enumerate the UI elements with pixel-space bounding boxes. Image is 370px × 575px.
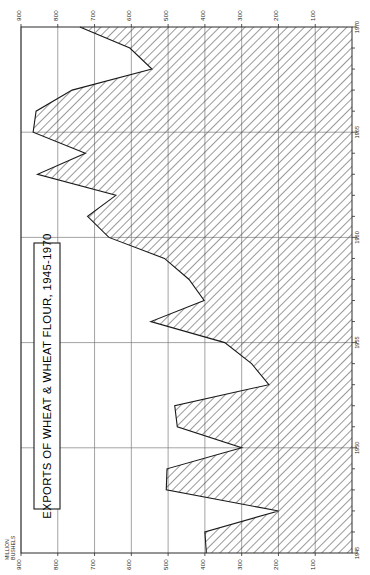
value-tick-label-top-600: 600	[125, 10, 132, 21]
value-tick-label-bottom-300: 300	[236, 559, 243, 570]
year-tick-label-1970: 1970	[354, 21, 360, 33]
chart-title: EXPORTS OF WHEAT & WHEAT FLOUR, 1945-197…	[41, 233, 53, 518]
value-tick-label-bottom-900: 900	[15, 559, 22, 570]
value-tick-label-bottom-200: 200	[272, 559, 279, 570]
chart-title-box: EXPORTS OF WHEAT & WHEAT FLOUR, 1945-197…	[34, 233, 60, 518]
chart-figure: 9009008008007007006006005005004004003003…	[0, 0, 370, 575]
year-tick-label-1960: 1960	[354, 231, 360, 243]
value-tick-label-top-300: 300	[236, 10, 243, 21]
value-tick-label-top-900: 900	[15, 10, 22, 21]
value-tick-label-top-200: 200	[272, 10, 279, 21]
value-tick-label-bottom-700: 700	[89, 559, 96, 570]
value-tick-label-bottom-500: 500	[162, 559, 169, 570]
value-tick-label-bottom-800: 800	[52, 559, 59, 570]
year-tick-label-1950: 1950	[354, 442, 360, 454]
value-tick-label-top-700: 700	[89, 10, 96, 21]
value-tick-label-top-500: 500	[162, 10, 169, 21]
value-tick-label-bottom-400: 400	[199, 559, 206, 570]
unit-label-line2: BUSHELS	[10, 535, 16, 560]
value-tick-label-top-100: 100	[309, 10, 316, 21]
value-tick-label-bottom-100: 100	[309, 559, 316, 570]
value-tick-label-top-800: 800	[52, 10, 59, 21]
value-tick-label-top-400: 400	[199, 10, 206, 21]
year-tick-label-1945: 1945	[354, 547, 360, 559]
year-tick-label-1965: 1965	[354, 126, 360, 138]
year-tick-label-1955: 1955	[354, 336, 360, 348]
chart-canvas: 9009008008007007006006005005004004003003…	[0, 0, 370, 575]
value-tick-label-bottom-600: 600	[125, 559, 132, 570]
